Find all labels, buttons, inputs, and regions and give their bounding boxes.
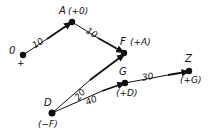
edge-0-A: 10 [23,24,69,55]
edge-G-Z: 30 [125,71,186,83]
edge-D-G: 40 [52,84,122,113]
node-label: 0 [9,45,15,56]
node-annotation: (+G) [180,75,202,85]
edge-A-F: 10 [72,22,121,51]
node-annotation: + [17,58,25,68]
node-label: D [44,97,52,108]
node-label: Z [184,53,193,64]
graph-diagram: 10 10 20 40 30 0 + A (+0) F (+A) G (+D) [0,0,208,137]
node-0: 0 + [9,45,26,68]
node-annotation: (+A) [130,37,151,47]
node-F: F (+A) [120,36,151,56]
node-Z: Z (+G) [180,53,202,85]
edge-weight: 40 [84,93,99,107]
node-D: D (−F) [38,97,58,129]
node-label: F [120,36,126,47]
node-G: G (+D) [116,66,138,98]
node-A: A (+0) [58,5,88,25]
node-label: A [58,5,66,16]
node-annotation: (+0) [68,6,88,16]
node-label: G [119,66,127,77]
node-annotation: (−F) [38,119,58,129]
edge-weight: 30 [141,71,154,83]
node-annotation: (+D) [116,88,138,98]
